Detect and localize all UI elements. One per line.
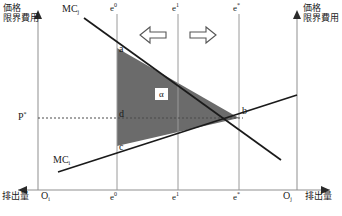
point-label-c: c <box>119 141 123 152</box>
right-axis-label: 価格 限界費用 <box>303 3 339 23</box>
region-label-alpha: α <box>155 88 168 100</box>
right-axis-label-line2: 限界費用 <box>303 13 339 23</box>
arrow-left-icon <box>140 27 166 43</box>
diagram-canvas <box>0 0 342 216</box>
tick-top-e1-sup: 1 <box>176 2 179 8</box>
price-label-pstar: P* <box>18 111 27 122</box>
point-label-a: a <box>119 43 123 54</box>
tick-top-e0: e0 <box>110 2 117 13</box>
origin-label-left: Oi <box>41 190 50 203</box>
tick-bottom-e1-sup: 1 <box>176 191 179 197</box>
bottom-left-axis-label: 排出量 <box>2 191 29 201</box>
curve-label-mc-i-sub: i <box>69 160 71 166</box>
origin-right-sub: j <box>290 196 292 202</box>
curve-label-mc-i: MCi <box>53 154 70 167</box>
arrow-right-icon <box>190 27 216 43</box>
left-axis-label-line1: 価格 <box>3 3 39 13</box>
tick-top-e0-sup: 0 <box>114 2 117 8</box>
curve-label-mc-j: MCj <box>62 3 79 16</box>
curve-label-mc-j-sub: j <box>78 9 80 15</box>
emissions-trading-diagram: 価格 限界費用 価格 限界費用 排出量 排出量 Oi Oj MCj MCi e0… <box>0 0 342 216</box>
tick-bottom-e1: e1 <box>172 191 179 202</box>
tick-bottom-e0: e0 <box>110 191 117 202</box>
tick-top-estar: e* <box>233 2 240 13</box>
tick-bottom-e0-sup: 0 <box>114 191 117 197</box>
tick-top-e1: e1 <box>172 2 179 13</box>
left-axis-label-line2: 限界費用 <box>3 13 39 23</box>
tick-top-estar-sup: * <box>237 2 240 8</box>
origin-left-sub: i <box>48 196 50 202</box>
right-vertical-arrowhead-icon <box>293 10 301 19</box>
price-label-sup: * <box>24 111 27 117</box>
bottom-right-axis-label: 排出量 <box>305 191 332 201</box>
tick-bottom-estar-sup: * <box>237 191 240 197</box>
origin-label-right: Oj <box>283 190 292 203</box>
tick-bottom-estar: e* <box>233 191 240 202</box>
curve-mc-j <box>84 18 281 160</box>
left-axis-label: 価格 限界費用 <box>3 3 39 23</box>
curve-label-mc-j-text: MC <box>62 3 78 14</box>
curve-label-mc-i-text: MC <box>53 154 69 165</box>
right-axis-label-line1: 価格 <box>303 3 339 13</box>
point-label-d: d <box>119 108 124 119</box>
point-label-b: b <box>242 105 247 116</box>
